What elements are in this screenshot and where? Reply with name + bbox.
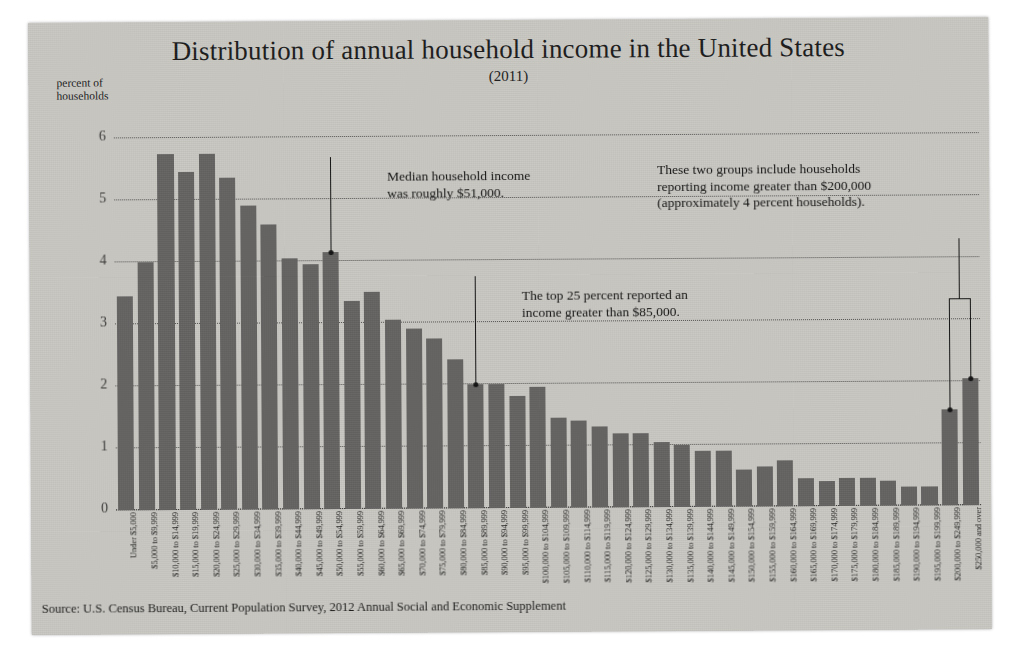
x-tick-label: $65,000 to $69,999 (397, 511, 406, 576)
x-tick-label: $175,000 to $179,999 (850, 508, 859, 581)
x-tick-label: Under $5,000 (130, 512, 139, 558)
annotation-median-income: Median household income was roughly $51,… (387, 167, 637, 202)
bar (406, 329, 423, 509)
x-tick-label: $185,000 to $189,999 (892, 508, 901, 581)
x-tick-label: $145,000 to $149,999 (727, 509, 736, 582)
x-tick-label: $50,000 to $54,999 (336, 511, 345, 576)
x-tick-label: $40,000 to $44,999 (294, 511, 303, 576)
x-tick-label: $170,000 to $174,999 (830, 508, 839, 581)
bar (323, 252, 341, 509)
x-tick-label: $110,000 to $114,999 (583, 510, 592, 583)
x-tick-label: $125,000 to $129,999 (644, 509, 653, 582)
bar (302, 264, 320, 509)
bar (178, 172, 196, 510)
bar (860, 478, 876, 506)
x-tick-label: $250,000 and over (974, 507, 983, 570)
bar (199, 153, 217, 510)
x-tick-label: $70,000 to $74,999 (418, 511, 427, 576)
x-tick-label: $95,000 to $99,999 (521, 510, 530, 575)
bar (426, 338, 443, 509)
bar (674, 445, 690, 507)
bar (261, 224, 279, 509)
x-tick-label: $190,000 to $194,999 (912, 507, 921, 580)
chart-title: Distribution of annual household income … (28, 31, 988, 68)
scanned-page-panel: Distribution of annual household income … (28, 17, 992, 635)
x-tick-label: $55,000 to $59,999 (356, 511, 365, 576)
bar (592, 427, 609, 508)
chart-subtitle: (2011) (28, 65, 988, 88)
chart-page: Distribution of annual household income … (0, 0, 1014, 658)
bar (757, 466, 773, 506)
x-tick-label: $155,000 to $159,999 (768, 508, 777, 581)
x-tick-label: $165,000 to $169,999 (809, 508, 818, 581)
bar (633, 433, 650, 507)
x-tick-label: $195,000 to $199,999 (933, 507, 942, 580)
y-tick-label-0: 0 (101, 501, 108, 517)
bar (282, 258, 300, 509)
x-tick-label: $10,000 to $14,999 (171, 512, 180, 577)
x-tick-label: $140,000 to $144,999 (706, 509, 715, 582)
y-tick-label-5: 5 (99, 191, 106, 207)
bar (240, 206, 258, 510)
annotation-over-200k: These two groups include households repo… (657, 160, 987, 212)
bar (344, 301, 361, 509)
y-axis-label-line1: percent of (56, 76, 146, 90)
annotation-over200k-line1: These two groups include households (657, 160, 987, 179)
bar (818, 481, 834, 506)
bar (219, 178, 237, 510)
x-tick-label: $85,000 to $89,999 (480, 510, 489, 575)
annotation-median-line2: was roughly $51,000. (387, 184, 637, 202)
y-tick-label-3: 3 (100, 315, 107, 331)
bar (509, 396, 526, 508)
x-tick-label: $105,000 to $109,999 (562, 510, 571, 583)
x-tick-label: $160,000 to $164,999 (789, 508, 798, 581)
bar (364, 292, 381, 509)
bar (157, 154, 175, 511)
bar (447, 359, 464, 508)
x-tick-label: $120,000 to $124,999 (624, 509, 633, 582)
x-tick-label: $135,000 to $139,999 (686, 509, 695, 582)
y-axis-label: percent of households (56, 76, 146, 103)
bar (385, 320, 402, 509)
y-tick-label-6: 6 (99, 129, 106, 145)
y-axis-label-line2: households (57, 89, 147, 103)
bar (488, 384, 505, 508)
bar (653, 442, 669, 507)
bar (901, 487, 917, 506)
x-tick-label: $115,000 to $119,999 (603, 509, 612, 582)
x-tick-label: $30,000 to $34,999 (253, 512, 262, 577)
bar (777, 460, 793, 507)
x-tick-label: $100,000 to $104,999 (542, 510, 551, 583)
annotation-median-line1: Median household income (387, 167, 637, 185)
x-tick-label: $200,000 to $249,999 (953, 507, 962, 580)
y-tick-label-2: 2 (100, 377, 107, 393)
bar (550, 418, 567, 508)
x-tick-label: $35,000 to $39,999 (274, 511, 283, 576)
annotation-top25-line1: The top 25 percent reported an (522, 286, 772, 304)
bar (736, 469, 752, 506)
annotation-top-25-percent: The top 25 percent reported an income gr… (522, 286, 772, 321)
x-tick-label: $25,000 to $29,999 (233, 512, 242, 577)
x-tick-label: $75,000 to $79,999 (439, 510, 448, 575)
bar (962, 378, 979, 505)
bar (612, 433, 629, 507)
bar (695, 451, 711, 507)
source-note: Source: U.S. Census Bureau, Current Popu… (42, 599, 566, 617)
bar (468, 384, 485, 508)
x-tick-label: $60,000 to $64,999 (377, 511, 386, 576)
x-tick-label: $130,000 to $134,999 (665, 509, 674, 582)
bar (117, 296, 134, 510)
x-tick-label: $15,000 to $19,999 (191, 512, 200, 577)
bar (839, 478, 855, 506)
annotation-over200k-line2: reporting income greater than $200,000 (657, 177, 987, 196)
bar (942, 409, 959, 505)
bar (921, 487, 937, 506)
bar (137, 262, 155, 510)
x-tick-label: $20,000 to $24,999 (212, 512, 221, 577)
annotation-top25-line2: income greater than $85,000. (522, 303, 772, 321)
x-tick-label: $150,000 to $154,999 (747, 508, 756, 581)
y-tick-label-1: 1 (101, 439, 108, 455)
x-tick-label: $180,000 to $184,999 (871, 508, 880, 581)
bar (715, 451, 731, 507)
bar (571, 421, 588, 508)
